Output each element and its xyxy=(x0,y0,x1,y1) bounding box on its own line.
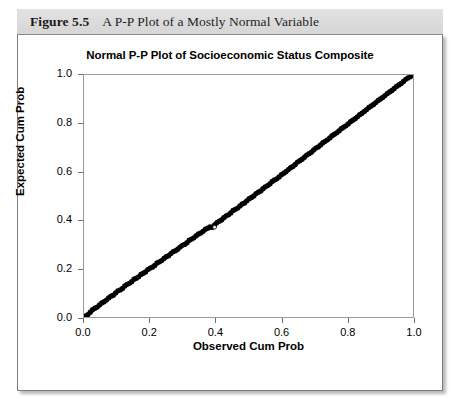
y-tick-label: 0.8 xyxy=(42,116,72,128)
y-tick-label: 0.4 xyxy=(42,213,72,225)
x-tick-mark xyxy=(83,318,84,323)
x-tick-label: 0.6 xyxy=(267,326,297,338)
data-point-group xyxy=(84,75,413,317)
x-tick-mark xyxy=(414,318,415,323)
x-tick-label: 1.0 xyxy=(399,326,429,338)
y-tick-label: 0.6 xyxy=(42,165,72,177)
x-tick-label: 0.0 xyxy=(68,326,98,338)
plot-frame xyxy=(83,74,414,318)
figure-caption-label: A P-P Plot of a Mostly Normal Variable xyxy=(102,14,319,30)
y-axis-title: Expected Cum Prob xyxy=(14,87,26,196)
plot-data-svg xyxy=(84,75,413,317)
x-tick-label: 0.2 xyxy=(134,326,164,338)
hollow-marker xyxy=(213,225,217,229)
y-tick-label: 0.2 xyxy=(42,262,72,274)
x-tick-mark xyxy=(348,318,349,323)
x-tick-mark xyxy=(149,318,150,323)
x-tick-label: 0.8 xyxy=(333,326,363,338)
x-tick-mark xyxy=(282,318,283,323)
y-tick-label: 1.0 xyxy=(42,67,72,79)
x-tick-label: 0.4 xyxy=(200,326,230,338)
chart-title: Normal P-P Plot of Socioeconomic Status … xyxy=(18,49,442,61)
x-tick-mark xyxy=(215,318,216,323)
figure-block: Figure 5.5 A P-P Plot of a Mostly Normal… xyxy=(17,9,443,391)
figure-caption-bar: Figure 5.5 A P-P Plot of a Mostly Normal… xyxy=(17,9,443,34)
figure-number-label: Figure 5.5 xyxy=(30,14,89,30)
x-axis-title: Observed Cum Prob xyxy=(83,340,414,352)
figure-panel: Normal P-P Plot of Socioeconomic Status … xyxy=(17,34,443,391)
reference-point-marker xyxy=(213,225,217,229)
y-tick-label: 0.0 xyxy=(42,311,72,323)
pp-plot-chart: Normal P-P Plot of Socioeconomic Status … xyxy=(18,35,442,390)
